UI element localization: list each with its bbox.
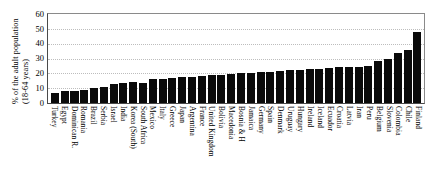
x-axis-tick-label: Greece bbox=[168, 106, 175, 127]
x-axis-tick-label: Israel bbox=[109, 106, 116, 123]
bar bbox=[374, 61, 382, 103]
x-axis-tick-label: Argentina bbox=[188, 106, 195, 136]
x-axis-tick-label: France bbox=[198, 106, 205, 126]
bar bbox=[276, 71, 284, 103]
bar bbox=[384, 59, 392, 104]
x-axis-tick-slot: Argentina bbox=[188, 105, 196, 181]
x-axis-tick-slot: Denmark bbox=[276, 105, 284, 181]
x-axis-tick-label: Denmark bbox=[277, 106, 284, 134]
x-axis-tick-slot: Egypt bbox=[60, 105, 68, 181]
bar bbox=[100, 87, 108, 103]
bar bbox=[70, 91, 78, 103]
bar bbox=[90, 88, 98, 103]
bar bbox=[217, 75, 225, 103]
x-axis-tick-slot: Uruguay bbox=[286, 105, 294, 181]
bar bbox=[306, 69, 314, 103]
x-axis-tick-slot: Slovenia bbox=[385, 105, 393, 181]
bar bbox=[286, 70, 294, 103]
bar bbox=[188, 77, 196, 103]
x-axis-tick-slot: Germany bbox=[257, 105, 265, 181]
bar bbox=[61, 91, 69, 103]
x-axis-tick-slot: Belgium bbox=[375, 105, 383, 181]
x-axis-tick-slot: Turkey bbox=[50, 105, 58, 181]
bar bbox=[139, 83, 147, 103]
x-axis-tick-label: Romania bbox=[80, 106, 87, 133]
x-axis-tick-slot: Bosnia & H bbox=[237, 105, 245, 181]
bar bbox=[345, 67, 353, 103]
bar bbox=[198, 76, 206, 103]
x-axis-tick-slot: Bolivia bbox=[217, 105, 225, 181]
x-axis-tick-slot: Macedonia bbox=[227, 105, 235, 181]
y-axis-tick-label: 60 bbox=[36, 10, 45, 19]
x-axis-tick-slot: Spain bbox=[266, 105, 274, 181]
x-axis-tick-slot: Peru bbox=[365, 105, 373, 181]
x-axis-tick-label: Hungary bbox=[296, 106, 303, 132]
x-axis-tick-label: Macedonia bbox=[227, 106, 234, 139]
bar bbox=[178, 77, 186, 103]
bar bbox=[413, 32, 421, 103]
y-axis-title: % of the adult population (18-64 years) bbox=[0, 0, 26, 110]
x-axis-tick-slot: Ireland bbox=[306, 105, 314, 181]
x-axis-tick-label: Croatia bbox=[336, 106, 343, 128]
y-axis-tick-labels: 0102030405060 bbox=[24, 0, 46, 112]
x-axis-tick-slot: Ecuador bbox=[326, 105, 334, 181]
y-axis-tick-label: 20 bbox=[36, 69, 45, 78]
bar bbox=[315, 69, 323, 103]
bar bbox=[247, 73, 255, 103]
bar bbox=[257, 72, 265, 103]
y-axis-tick-label: 0 bbox=[40, 99, 44, 108]
x-axis-tick-label: Spain bbox=[267, 106, 274, 123]
x-axis-tick-label: Germany bbox=[257, 106, 264, 134]
x-axis-tick-label: South Africa bbox=[139, 106, 146, 144]
x-axis-tick-slot: Brazil bbox=[89, 105, 97, 181]
x-axis-tick-label: Ecuador bbox=[326, 106, 333, 131]
bar bbox=[149, 79, 157, 103]
x-axis-tick-label: Peru bbox=[365, 106, 372, 120]
x-axis-tick-slot: Iceland bbox=[316, 105, 324, 181]
bar bbox=[80, 90, 88, 103]
plot-area bbox=[47, 13, 425, 104]
y-axis-title-line-1: % of the adult population bbox=[11, 18, 20, 104]
bar bbox=[208, 75, 216, 103]
bar bbox=[237, 73, 245, 103]
y-axis-tick-label: 50 bbox=[36, 25, 45, 34]
bar bbox=[266, 72, 274, 103]
x-axis-tick-slot: Greece bbox=[168, 105, 176, 181]
x-axis-tick-slot: Mexico bbox=[148, 105, 156, 181]
x-axis-tick-label: Egypt bbox=[60, 106, 67, 124]
x-axis-tick-slot: France bbox=[198, 105, 206, 181]
x-axis-tick-slot: Israel bbox=[109, 105, 117, 181]
bar bbox=[325, 68, 333, 103]
x-axis-tick-label: India bbox=[119, 106, 126, 121]
bar bbox=[168, 78, 176, 103]
x-axis-tick-slot: Romania bbox=[79, 105, 87, 181]
x-axis-tick-label: Dominican R. bbox=[70, 106, 77, 148]
x-axis-tick-slot: United Kingdom bbox=[207, 105, 215, 181]
x-axis-tick-labels: TurkeyEgyptDominican R.RomaniaBrazilSerb… bbox=[47, 105, 425, 181]
x-axis-tick-slot: Dominican R. bbox=[70, 105, 78, 181]
bar bbox=[119, 83, 127, 103]
y-axis-tick-label: 40 bbox=[36, 39, 45, 48]
bar bbox=[394, 53, 402, 103]
x-axis-tick-label: Ireland bbox=[306, 106, 313, 127]
x-axis-tick-slot: Finland bbox=[414, 105, 422, 181]
x-axis-tick-slot: Jamaica bbox=[247, 105, 255, 181]
x-axis-tick-slot: Croatia bbox=[335, 105, 343, 181]
x-axis-tick-slot: Iran bbox=[355, 105, 363, 181]
x-axis-tick-label: Slovenia bbox=[385, 106, 392, 132]
bar bbox=[296, 70, 304, 103]
x-axis-tick-label: Colombia bbox=[395, 106, 402, 136]
y-axis-tick-label: 30 bbox=[36, 54, 45, 63]
x-axis-tick-label: Mexico bbox=[149, 106, 156, 129]
x-axis-tick-label: Uruguay bbox=[286, 106, 293, 132]
x-axis-tick-slot: Japan bbox=[178, 105, 186, 181]
x-axis-tick-label: Chile bbox=[405, 106, 412, 122]
x-axis-tick-label: Iran bbox=[355, 106, 362, 118]
bar bbox=[364, 66, 372, 103]
x-axis-tick-label: Turkey bbox=[50, 106, 57, 127]
bar bbox=[159, 79, 167, 103]
x-axis-tick-label: Serbia bbox=[99, 106, 106, 125]
x-axis-tick-label: United Kingdom bbox=[208, 106, 215, 157]
bar bbox=[355, 67, 363, 103]
x-axis-tick-slot: Serbia bbox=[99, 105, 107, 181]
